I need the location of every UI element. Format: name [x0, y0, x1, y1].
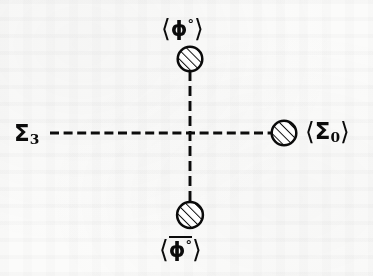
- sigma-glyph-left: Σ: [14, 120, 30, 146]
- ket-bracket-right: ⟩: [340, 117, 350, 146]
- figure-canvas: ⟨ϕ°⟩ ⟨ϕ°⟩ Σ3 ⟨Σ0⟩: [0, 0, 373, 276]
- phi-glyph-top: ϕ: [171, 17, 188, 41]
- blob-top: [178, 47, 203, 72]
- bra-bracket-bottom: ⟨: [159, 235, 169, 264]
- overbar-group-bottom: ϕ°: [169, 236, 192, 261]
- sigma-subscript-right: 0: [330, 129, 340, 145]
- blob-right: [272, 121, 297, 146]
- sigma-glyph-right: Σ: [315, 118, 331, 144]
- ket-bracket-top: ⟩: [194, 14, 204, 43]
- ket-bracket-bottom: ⟩: [192, 235, 202, 264]
- label-phi-zero: ⟨ϕ°⟩: [161, 16, 204, 41]
- bra-bracket-top: ⟨: [161, 14, 171, 43]
- blob-bottom: [177, 202, 203, 228]
- bra-bracket-right: ⟨: [305, 117, 315, 146]
- label-phi-zero-bar: ⟨ϕ°⟩: [159, 236, 202, 262]
- sigma-subscript-left: 3: [30, 131, 40, 147]
- phi-glyph-bottom: ϕ: [169, 238, 186, 262]
- label-sigma-three: Σ3: [14, 121, 39, 147]
- label-sigma-zero: ⟨Σ0⟩: [305, 119, 350, 145]
